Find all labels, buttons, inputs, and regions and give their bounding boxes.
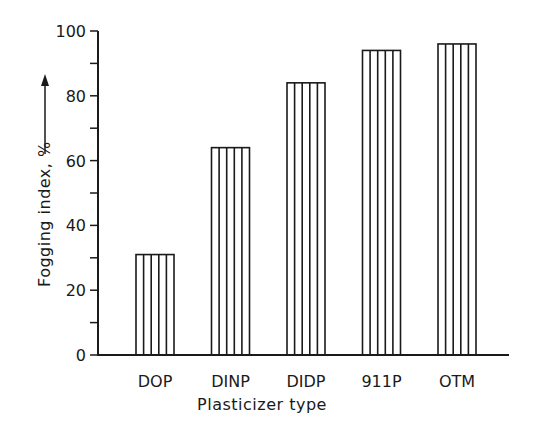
x-tick-label: DIDP bbox=[286, 372, 325, 391]
y-tick-label: 0 bbox=[76, 346, 86, 365]
bars-group bbox=[136, 44, 476, 355]
x-tick-labels-group: DOPDINPDIDP911POTM bbox=[138, 372, 475, 391]
bar-dop bbox=[136, 255, 174, 355]
x-tick-label: 911P bbox=[361, 372, 402, 391]
y-axis-title: Fogging index, % bbox=[35, 141, 54, 287]
y-tick-label: 80 bbox=[66, 87, 86, 106]
bar-didp bbox=[287, 83, 325, 355]
x-tick-label: DOP bbox=[138, 372, 173, 391]
y-tick-label: 100 bbox=[55, 22, 86, 41]
y-tick-label: 60 bbox=[66, 152, 86, 171]
bar-dinp bbox=[212, 148, 250, 355]
x-tick-label: DINP bbox=[211, 372, 250, 391]
y-axis-title-group: Fogging index, % bbox=[35, 74, 54, 287]
bar bbox=[287, 83, 325, 355]
y-tick-label: 20 bbox=[66, 281, 86, 300]
bar bbox=[212, 148, 250, 355]
bar-911p bbox=[363, 50, 401, 355]
x-axis-title: Plasticizer type bbox=[197, 395, 327, 414]
bar bbox=[438, 44, 476, 355]
bar bbox=[136, 255, 174, 355]
bar bbox=[363, 50, 401, 355]
x-tick-label: OTM bbox=[439, 372, 475, 391]
y-tick-label: 40 bbox=[66, 216, 86, 235]
bar-otm bbox=[438, 44, 476, 355]
y-ticks-group: 020406080100 bbox=[55, 22, 98, 365]
bar-chart: 020406080100 DOPDINPDIDP911POTM Plastici… bbox=[0, 0, 537, 430]
